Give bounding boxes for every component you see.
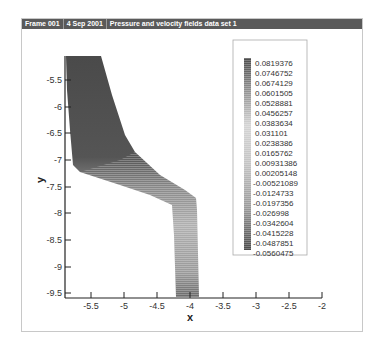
contour-plot: -5.5 -5 -4.5 -4 -3.5 -3 -2.5 -2 x -5.5 -…: [0, 0, 382, 348]
svg-text:-3: -3: [252, 301, 260, 311]
svg-text:0.0746752: 0.0746752: [255, 69, 293, 78]
svg-text:-3.5: -3.5: [215, 301, 231, 311]
svg-text:0.0601505: 0.0601505: [255, 89, 293, 98]
svg-text:-7.5: -7.5: [46, 182, 62, 192]
svg-text:-8: -8: [54, 208, 62, 218]
svg-text:-5.5: -5.5: [46, 75, 62, 85]
legend-labels: 0.0819376 0.0746752 0.0674129 0.0601505 …: [253, 59, 298, 258]
svg-text:0.0528881: 0.0528881: [255, 99, 293, 108]
svg-text:-9.5: -9.5: [46, 288, 62, 298]
svg-text:-0.0415228: -0.0415228: [253, 229, 294, 238]
svg-text:-5: -5: [120, 301, 128, 311]
svg-text:0.00931386: 0.00931386: [255, 159, 298, 168]
svg-text:0.0819376: 0.0819376: [255, 59, 293, 68]
svg-text:-0.0197356: -0.0197356: [253, 199, 294, 208]
svg-text:0.0238386: 0.0238386: [255, 139, 293, 148]
svg-text:-5.5: -5.5: [83, 301, 99, 311]
x-axis-ticks: [91, 292, 322, 298]
contour-region: [66, 56, 199, 297]
svg-text:-4: -4: [186, 301, 194, 311]
svg-text:-2.5: -2.5: [281, 301, 297, 311]
svg-text:-6.5: -6.5: [46, 128, 62, 138]
svg-text:0.0456257: 0.0456257: [255, 109, 293, 118]
svg-text:-0.0560475: -0.0560475: [253, 249, 294, 258]
svg-text:-8.5: -8.5: [46, 235, 62, 245]
svg-text:-2: -2: [318, 301, 326, 311]
y-axis-title: y: [34, 176, 46, 183]
svg-text:0.0165762: 0.0165762: [255, 149, 293, 158]
svg-text:-4.5: -4.5: [149, 301, 165, 311]
svg-text:-0.0124733: -0.0124733: [253, 189, 294, 198]
svg-text:-0.00521089: -0.00521089: [253, 179, 298, 188]
svg-text:0.00205148: 0.00205148: [255, 169, 298, 178]
svg-text:-0.0487851: -0.0487851: [253, 239, 294, 248]
svg-text:-6: -6: [54, 102, 62, 112]
contour-legend: 0.0819376 0.0746752 0.0674129 0.0601505 …: [233, 40, 307, 258]
svg-text:0.0674129: 0.0674129: [255, 79, 293, 88]
y-axis-tick-labels: -5.5 -6 -6.5 -7 -7.5 -8 -8.5 -9 -9.5: [46, 75, 62, 298]
svg-text:-0.0342604: -0.0342604: [253, 219, 294, 228]
svg-text:-9: -9: [54, 262, 62, 272]
svg-text:-7: -7: [54, 155, 62, 165]
svg-text:-0.026998: -0.026998: [253, 209, 290, 218]
x-axis-title: x: [187, 311, 194, 323]
svg-text:0.031101: 0.031101: [255, 129, 288, 138]
svg-text:0.0383634: 0.0383634: [255, 119, 293, 128]
x-axis-tick-labels: -5.5 -5 -4.5 -4 -3.5 -3 -2.5 -2: [83, 301, 326, 311]
